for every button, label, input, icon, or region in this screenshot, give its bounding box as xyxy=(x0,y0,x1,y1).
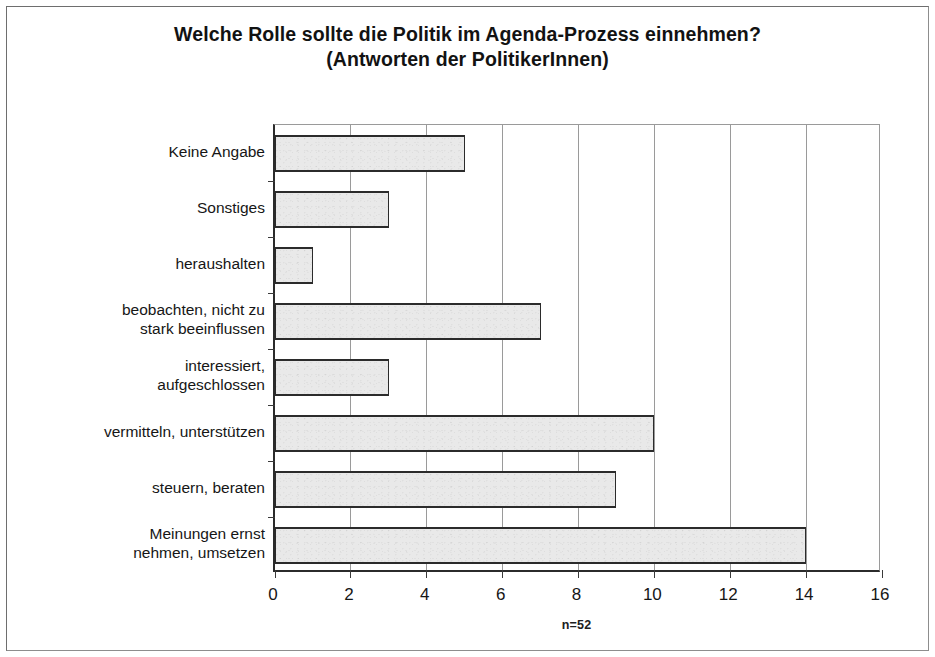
value-axis-tick-label: 14 xyxy=(774,585,834,605)
value-axis-tick xyxy=(350,570,351,578)
category-label-line: Meinungen ernst xyxy=(35,524,265,543)
category-label: Sonstiges xyxy=(35,198,265,217)
value-axis-tick-label: 8 xyxy=(547,585,607,605)
value-axis-tick-label: 2 xyxy=(319,585,379,605)
category-label: Keine Angabe xyxy=(35,142,265,161)
category-axis-tick xyxy=(268,405,275,406)
category-axis-tick xyxy=(268,181,275,182)
category-label-line: Sonstiges xyxy=(35,198,265,217)
category-label-line: Keine Angabe xyxy=(35,142,265,161)
chart-title-line2: (Antworten der PolitikerInnen) xyxy=(0,47,935,72)
bar xyxy=(275,415,654,452)
category-label: Meinungen ernstnehmen, umsetzen xyxy=(35,524,265,562)
category-label-line: vermitteln, unterstützen xyxy=(35,422,265,441)
value-axis-tick-label: 10 xyxy=(622,585,682,605)
category-axis-tick xyxy=(268,517,275,518)
value-axis-tick xyxy=(806,570,807,578)
category-label: beobachten, nicht zustark beeinflussen xyxy=(35,300,265,338)
category-label-line: stark beeinflussen xyxy=(35,319,265,338)
bar xyxy=(275,527,806,564)
gridline xyxy=(806,125,807,570)
category-axis-labels: Keine AngabeSonstigesheraushaltenbeobach… xyxy=(30,124,265,572)
bar xyxy=(275,191,389,228)
value-axis-tick xyxy=(882,570,883,578)
category-axis-tick xyxy=(268,461,275,462)
chart-title: Welche Rolle sollte die Politik im Agend… xyxy=(0,22,935,72)
value-axis-tick xyxy=(502,570,503,578)
category-label-line: heraushalten xyxy=(35,254,265,273)
bar xyxy=(275,359,389,396)
bar xyxy=(275,303,541,340)
category-label: heraushalten xyxy=(35,254,265,273)
value-axis-tick-label: 6 xyxy=(471,585,531,605)
category-axis-tick xyxy=(268,237,275,238)
value-axis-tick xyxy=(275,570,276,578)
sample-size-note: n=52 xyxy=(273,618,880,632)
category-label-line: aufgeschlossen xyxy=(35,375,265,394)
chart-page: Welche Rolle sollte die Politik im Agend… xyxy=(0,0,935,657)
category-label-line: steuern, beraten xyxy=(35,478,265,497)
category-axis-tick xyxy=(268,293,275,294)
category-label: interessiert,aufgeschlossen xyxy=(35,356,265,394)
gridline xyxy=(730,125,731,570)
value-axis-tick-labels: 0246810121416 xyxy=(273,585,880,611)
value-axis-tick-label: 12 xyxy=(698,585,758,605)
value-axis-tick-label: 16 xyxy=(850,585,910,605)
value-axis-tick xyxy=(578,570,579,578)
value-axis-tick xyxy=(426,570,427,578)
value-axis-tick xyxy=(730,570,731,578)
value-axis-tick xyxy=(654,570,655,578)
chart-title-line1: Welche Rolle sollte die Politik im Agend… xyxy=(174,23,761,45)
value-axis-tick-label: 4 xyxy=(395,585,455,605)
category-label-line: interessiert, xyxy=(35,356,265,375)
value-axis-tick-label: 0 xyxy=(243,585,303,605)
category-label: steuern, beraten xyxy=(35,478,265,497)
gridline xyxy=(654,125,655,570)
bar xyxy=(275,135,465,172)
bar xyxy=(275,471,616,508)
bar xyxy=(275,247,313,284)
category-label-line: beobachten, nicht zu xyxy=(35,300,265,319)
plot-area xyxy=(273,124,880,572)
category-axis-tick xyxy=(268,349,275,350)
category-label-line: nehmen, umsetzen xyxy=(35,543,265,562)
category-label: vermitteln, unterstützen xyxy=(35,422,265,441)
